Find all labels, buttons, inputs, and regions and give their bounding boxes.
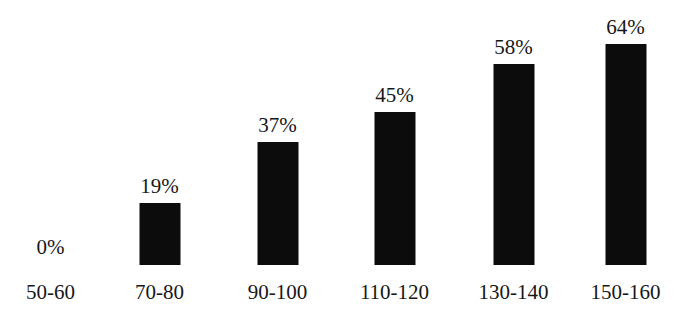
bar — [257, 142, 298, 265]
category-label: 130-140 — [479, 282, 549, 303]
bar — [139, 203, 180, 265]
bar-value-label: 64% — [606, 17, 645, 38]
bar-value-label: 37% — [258, 115, 297, 136]
bar-value-label: 0% — [37, 237, 65, 258]
plot-area: 0% 50-60 19% 70-80 37% 90-100 45% 110-12… — [0, 0, 685, 323]
bar-value-label: 45% — [375, 85, 414, 106]
bar — [374, 112, 415, 265]
bar-column: 58% 130-140 — [456, 0, 571, 323]
bar-column: 37% 90-100 — [220, 0, 335, 323]
bar-column: 64% 150-160 — [568, 0, 683, 323]
bar-chart: 0% 50-60 19% 70-80 37% 90-100 45% 110-12… — [0, 0, 685, 323]
category-label: 70-80 — [135, 282, 184, 303]
category-label: 150-160 — [591, 282, 661, 303]
bar — [605, 44, 646, 265]
category-label: 110-120 — [360, 282, 429, 303]
bar-column: 45% 110-120 — [337, 0, 452, 323]
bar-column: 19% 70-80 — [102, 0, 217, 323]
category-label: 90-100 — [248, 282, 308, 303]
bar-column: 0% 50-60 — [0, 0, 108, 323]
bar-value-label: 58% — [494, 37, 533, 58]
category-label: 50-60 — [26, 282, 75, 303]
bar — [493, 64, 534, 265]
bar-value-label: 19% — [140, 176, 179, 197]
